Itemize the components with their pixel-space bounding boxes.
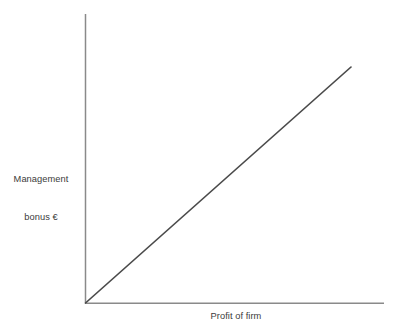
x-axis-label: Profit of firm [176, 310, 296, 323]
y-axis-label-line-2: bonus € [0, 211, 82, 224]
bonus-line-series [86, 67, 352, 303]
y-axis-label: Management bonus € [0, 148, 82, 248]
chart-figure: Management bonus € Profit of firm [0, 0, 398, 334]
y-axis-label-line-1: Management [0, 173, 82, 186]
